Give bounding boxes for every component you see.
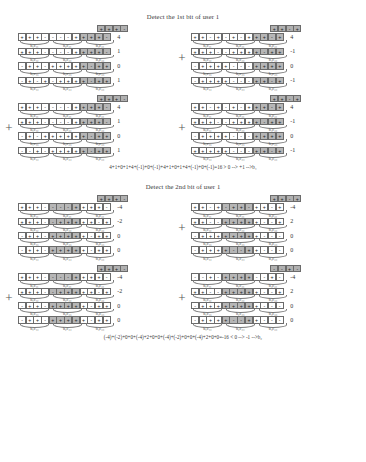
block-row: -++++---++++0b₁c₁₃b₂c₂₃b₃c₃₃ [191,132,346,146]
brace-group: b₂c₂₃ [224,69,257,76]
block-row: +++----++++-1b₁c₁₂b₂c₂₂b₃c₃₂ [18,48,173,62]
brace-label: b₃c₃₄ [84,86,117,91]
block-row: -++-+++++-++0b₁c₁₃b₂c₂₃b₃c₃₃ [18,232,173,246]
row-value: -1 [290,48,302,54]
block-row: +++--+++++-+-2b₁c₁₂b₂c₂₂b₃c₃₂ [18,218,173,232]
row-value: 4 [117,34,129,40]
brace-label-row: b₁c₁₃b₂c₂₃b₃c₃₃ [191,309,346,316]
row-value: -1 [290,147,302,153]
header-sign-cell: + [293,25,301,32]
brace-group: b₁c₁₁ [191,210,224,217]
block-row: ++--+++++--+2b₁c₁₂b₂c₂₂b₃c₃₂ [191,288,346,302]
brace-label-row: b₁c₁₁b₂c₂₁b₃c₃₁ [191,40,346,47]
brace-group: b₂c₂₄ [224,253,257,260]
detection-section: Detect the 1st bit of user 1+++-+++----+… [0,13,366,170]
brace-group: b₃c₃₂ [257,225,290,232]
brace-group: b₂c₂₄ [51,323,84,330]
brace-label: b₂c₂₄ [224,256,257,261]
block-header: ++-+ [225,95,346,102]
brace-group: b₃c₃₄ [84,83,117,90]
row-value: -4 [117,204,129,210]
brace-group: b₃c₃₄ [257,153,290,160]
brace-group: b₃c₃₃ [257,69,290,76]
brace-group: b₂c₂₂ [51,55,84,62]
brace-group: b₃c₃₂ [84,55,117,62]
brace-label: b₂c₂₄ [224,156,257,161]
brace-label: b₂c₂₄ [51,156,84,161]
block-row: +++----++++--4b₁c₁₁b₂c₂₁b₃c₃₁ [18,203,173,217]
brace-group: b₁c₁₄ [191,153,224,160]
block-pair-row: ++++-+++----++++--4b₁c₁₁b₂c₂₁b₃c₃₁+++--+… [0,265,366,331]
block-row: ++-+-+-+++-+4b₁c₁₁b₂c₂₁b₃c₃₁ [191,33,346,47]
brace-label-row: b₁c₁₄b₂c₂₄b₃c₃₄ [191,323,346,330]
brace-label: b₃c₃₄ [257,156,290,161]
detection-section: Detect the 2nd bit of user 1+++-+++----+… [0,183,366,340]
block-header: +++- [52,95,173,102]
section-gap [0,170,366,183]
header-cell-row: +++- [97,25,128,32]
brace-group: b₂c₂₁ [51,40,84,47]
brace-group: b₃c₃₃ [84,239,117,246]
brace-label-row: b₁c₁₂b₂c₂₂b₃c₃₂ [191,55,346,62]
header-sign-cell: - [120,195,128,202]
block-row: ++-+-+-+++-+4b₁c₁₁b₂c₂₁b₃c₃₁ [191,103,346,117]
section-equation: 4+1+0+1+4+(-1)+0+(-1)+4+1+0+1+4+(-1)+0+(… [0,164,366,170]
brace-group: b₁c₁₂ [18,225,51,232]
brace-group: b₃c₃₄ [257,253,290,260]
detection-block-right: --+---+-++++--+--4b₁c₁₁b₂c₂₁b₃c₃₁++--+++… [191,265,346,331]
brace-label-row: b₁c₁₃b₂c₂₃b₃c₃₃ [191,239,346,246]
brace-group: b₃c₃₄ [84,323,117,330]
row-value: 0 [117,63,129,69]
brace-group: b₂c₂₃ [224,309,257,316]
brace-group: b₂c₂₃ [51,139,84,146]
block-pair-row: ++++-+++----++++-4b₁c₁₁b₂c₂₁b₃c₃₁+++----… [0,95,366,161]
block-row: +++----++++--4b₁c₁₁b₂c₂₁b₃c₃₁ [18,273,173,287]
brace-group: b₂c₂₂ [224,125,257,132]
brace-label-row: b₁c₁₁b₂c₂₁b₃c₃₁ [18,110,173,117]
brace-group: b₂c₂₁ [51,110,84,117]
detection-block-left: +++-+++----++++-4b₁c₁₁b₂c₂₁b₃c₃₁+++----+… [18,25,173,91]
brace-label: b₂c₂₄ [224,86,257,91]
brace-label-row: b₁c₁₄b₂c₂₄b₃c₃₄ [18,253,173,260]
brace-group: b₁c₁₄ [191,253,224,260]
brace-group: b₃c₃₃ [257,239,290,246]
brace-group: b₁c₁₄ [18,153,51,160]
brace-group: b₁c₁₃ [191,309,224,316]
block-row: +++--++++-++-1b₁c₁₂b₂c₂₂b₃c₃₂ [191,118,346,132]
row-value: 0 [117,133,129,139]
row-value: -4 [290,204,302,210]
block-row: -++-+++++-++0b₁c₁₃b₂c₂₃b₃c₃₃ [18,62,173,76]
block-header: --+- [225,265,346,272]
block-row: -++-+++++-++0b₁c₁₃b₂c₂₃b₃c₃₃ [18,302,173,316]
header-sign-cell: - [120,95,128,102]
row-value: 0 [290,303,302,309]
brace-group: b₂c₂₁ [224,40,257,47]
brace-group: b₃c₃₃ [257,309,290,316]
row-value: 0 [117,303,129,309]
detection-block-left: +++-+++----++++--4b₁c₁₁b₂c₂₁b₃c₃₁+++--++… [18,195,173,261]
brace-label-row: b₁c₁₃b₂c₂₃b₃c₃₃ [18,239,173,246]
block-row: -++-+++++-++0b₁c₁₄b₂c₂₄b₃c₃₄ [18,246,173,260]
brace-label: b₃c₃₄ [84,256,117,261]
row-value: 1 [117,48,129,54]
row-value: 4 [290,104,302,110]
header-sign-cell: - [293,265,301,272]
brace-label: b₃c₃₄ [84,326,117,331]
brace-group: b₃c₃₂ [257,55,290,62]
brace-group: b₂c₂₁ [224,210,257,217]
block-header: +++- [52,195,173,202]
block-header: ++-+ [225,195,346,202]
brace-label-row: b₁c₁₃b₂c₂₃b₃c₃₃ [191,139,346,146]
detection-block-right: ++-+++-+-+-+++-+4b₁c₁₁b₂c₂₁b₃c₃₁+++--+++… [191,25,346,91]
row-value: 1 [117,77,129,83]
brace-group: b₁c₁₁ [18,110,51,117]
row-value: 4 [117,104,129,110]
brace-label: b₃c₃₄ [257,326,290,331]
header-cell-row: ++-+ [270,195,301,202]
block-header: +++- [52,25,173,32]
block-row: +++--+++++-+-2b₁c₁₂b₂c₂₂b₃c₃₂ [18,288,173,302]
header-cell-row: --+- [270,265,301,272]
brace-label-row: b₁c₁₄b₂c₂₄b₃c₃₄ [18,323,173,330]
brace-label: b₂c₂₄ [51,256,84,261]
brace-group: b₁c₁₂ [191,55,224,62]
